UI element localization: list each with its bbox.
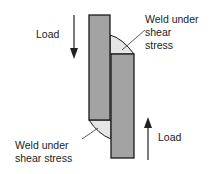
lower-weld-leader <box>82 128 98 139</box>
upper-weld-leader <box>122 30 145 50</box>
upper-weld-label-line2: shear <box>145 27 171 38</box>
load-top-label: Load <box>36 29 59 40</box>
lower-weld <box>89 120 111 139</box>
load-down-arrow <box>70 15 78 59</box>
upper-weld-label-line3: stress <box>145 40 173 51</box>
load-up-arrow <box>144 117 152 160</box>
lower-weld-label-line2: shear stress <box>15 153 72 164</box>
lower-weld-label-line1: Weld under <box>15 140 69 151</box>
left-plate <box>89 15 110 120</box>
right-plate <box>111 54 134 158</box>
load-bottom-label: Load <box>158 132 181 143</box>
upper-weld <box>110 35 134 54</box>
upper-weld-label-line1: Weld under <box>145 14 199 25</box>
